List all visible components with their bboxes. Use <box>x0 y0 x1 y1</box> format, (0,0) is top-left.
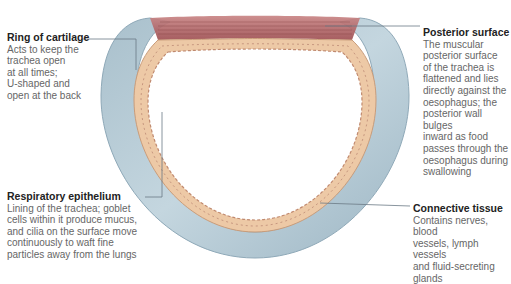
label-respiratory-epithelium: Respiratory epithelium Lining of the tra… <box>7 191 147 261</box>
label-connective-tissue: Connective tissue Contains nerves, blood… <box>413 203 511 284</box>
label-posterior-surface: Posterior surface The muscular posterior… <box>423 27 511 178</box>
trachealis-muscle <box>150 16 360 40</box>
label-body: Acts to keep the trachea open at all tim… <box>7 44 107 102</box>
label-heading: Respiratory epithelium <box>7 191 147 203</box>
label-body: Lining of the trachea; goblet cells with… <box>7 203 147 261</box>
label-heading: Connective tissue <box>413 203 511 215</box>
label-heading: Posterior surface <box>423 27 511 39</box>
label-heading: Ring of cartilage <box>7 32 107 44</box>
label-ring-of-cartilage: Ring of cartilage Acts to keep the trach… <box>7 32 107 102</box>
label-body: Contains nerves, blood vessels, lymph ve… <box>413 215 511 284</box>
label-body: The muscular posterior surface of the tr… <box>423 39 511 178</box>
